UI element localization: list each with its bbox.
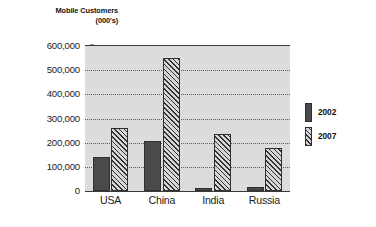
gridline-300000 bbox=[85, 119, 290, 120]
legend-swatch-2007 bbox=[305, 127, 312, 146]
bar-china-2007 bbox=[163, 58, 180, 191]
x-axis: USAChinaIndiaRussia bbox=[85, 194, 290, 214]
chart-title: Mobile Customers (000's) bbox=[6, 6, 118, 25]
y-tick-label-400000: 400,000 bbox=[47, 88, 80, 99]
y-tick-label-100000: 100,000 bbox=[47, 160, 80, 171]
y-tick-label-500000: 500,000 bbox=[47, 64, 80, 75]
y-tick-label-200000: 200,000 bbox=[47, 136, 80, 147]
legend-swatch-2002 bbox=[305, 103, 312, 122]
chart-legend: 2002 2007 bbox=[305, 100, 367, 148]
x-tick-label-russia: Russia bbox=[249, 194, 280, 206]
bar-india-2007 bbox=[214, 134, 231, 191]
legend-item-2002: 2002 bbox=[305, 100, 367, 124]
y-tick-label-300000: 300,000 bbox=[47, 112, 80, 123]
legend-label-2002: 2002 bbox=[318, 107, 336, 117]
x-tick-label-india: India bbox=[202, 194, 224, 206]
bar-russia-2007 bbox=[265, 148, 282, 192]
chart-title-line-2: (000's) bbox=[6, 16, 118, 26]
y-tick-label-0: 0 bbox=[75, 185, 80, 196]
legend-label-2007: 2007 bbox=[318, 131, 336, 141]
plot-area bbox=[85, 45, 290, 192]
gridline-500000 bbox=[85, 70, 290, 71]
mobile-customers-bar-chart: Mobile Customers (000's) 0100,000200,000… bbox=[0, 0, 376, 227]
chart-title-line-1: Mobile Customers bbox=[56, 6, 118, 15]
x-tick-label-usa: USA bbox=[100, 194, 121, 206]
x-tick-label-china: China bbox=[149, 194, 176, 206]
bar-india-2002 bbox=[195, 188, 212, 191]
bar-usa-2002 bbox=[93, 157, 110, 191]
legend-item-2007: 2007 bbox=[305, 124, 367, 148]
bar-russia-2002 bbox=[247, 187, 264, 191]
bar-usa-2007 bbox=[111, 128, 128, 191]
bar-china-2002 bbox=[144, 141, 161, 191]
gridline-400000 bbox=[85, 94, 290, 95]
y-tick-label-600000: 600,000 bbox=[47, 40, 80, 51]
y-axis: 0100,000200,000300,000400,000500,000600,… bbox=[10, 45, 80, 190]
